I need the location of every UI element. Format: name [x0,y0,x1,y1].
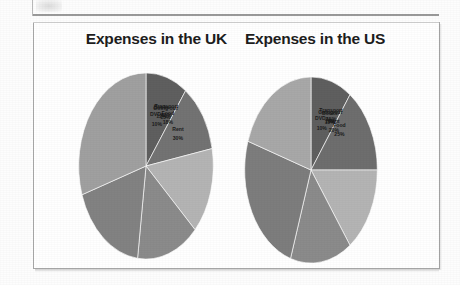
pie-chart-us: DVDs10%Books15%Going out15%Transport15%F… [244,76,378,264]
pie-chart-uk-svg: DVDs10%Books12%Going out15%Transport15%F… [78,72,214,260]
pie-chart-us-svg: DVDs10%Books15%Going out15%Transport15%F… [244,76,378,264]
page-edge-shadow-bottom [35,269,439,272]
pie-uk-slices [79,73,214,259]
scan-smudge [36,0,62,12]
chart-title-uk: Expenses in the UK [86,30,227,48]
document-page: Expenses in the UK Expenses in the US DV… [0,0,460,285]
chart-title-us: Expenses in the US [245,30,385,48]
page-frame-top-rule [33,14,439,16]
chart-titles-row: Expenses in the UK Expenses in the US [33,26,438,52]
figure-border-top [33,22,439,23]
page-edge-shadow-right [439,24,442,270]
pie-chart-uk: DVDs10%Books12%Going out15%Transport15%F… [78,72,214,260]
pie-us-slices [245,77,378,263]
